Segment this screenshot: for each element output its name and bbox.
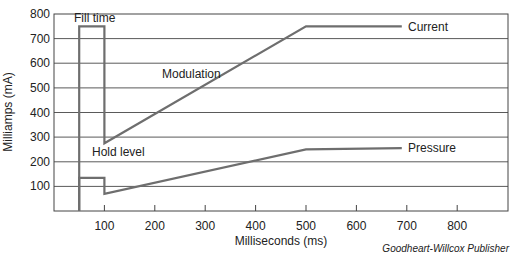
svg-text:100: 100 — [30, 179, 50, 193]
svg-text:700: 700 — [397, 219, 417, 233]
current-series-line — [79, 26, 402, 211]
modulation-annotation: Modulation — [162, 67, 221, 81]
x-tick-labels: 100 200 300 400 500 600 700 800 — [94, 219, 467, 233]
pressure-legend-label: Pressure — [408, 141, 456, 155]
svg-text:100: 100 — [94, 219, 114, 233]
svg-text:200: 200 — [30, 155, 50, 169]
svg-text:700: 700 — [30, 32, 50, 46]
hold-level-annotation: Hold level — [92, 145, 145, 159]
svg-text:300: 300 — [195, 219, 215, 233]
svg-text:400: 400 — [30, 106, 50, 120]
x-axis-label: Milliseconds (ms) — [235, 234, 328, 248]
gridlines — [54, 39, 508, 187]
svg-text:500: 500 — [296, 219, 316, 233]
publisher-credit: Goodheart-Willcox Publisher — [382, 243, 509, 254]
y-tick-labels: 800 700 600 500 400 300 200 100 — [30, 7, 50, 193]
y-axis-label: Milliamps (mA) — [1, 72, 15, 151]
svg-text:400: 400 — [246, 219, 266, 233]
svg-text:600: 600 — [346, 219, 366, 233]
svg-text:500: 500 — [30, 81, 50, 95]
svg-text:800: 800 — [30, 7, 50, 21]
fill-time-annotation: Fill time — [74, 11, 116, 25]
chart: 100 200 300 400 500 600 700 800 800 700 … — [0, 0, 517, 260]
x-ticks — [104, 205, 457, 211]
svg-text:300: 300 — [30, 130, 50, 144]
svg-text:200: 200 — [145, 219, 165, 233]
current-legend-label: Current — [408, 20, 449, 34]
svg-text:600: 600 — [30, 56, 50, 70]
svg-text:800: 800 — [447, 219, 467, 233]
